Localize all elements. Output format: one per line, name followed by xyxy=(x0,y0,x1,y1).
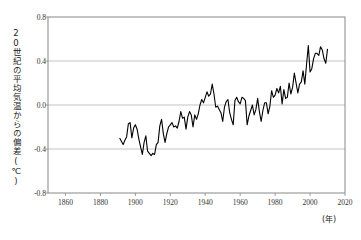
grid-lines xyxy=(48,61,345,149)
x-tick-label: 1860 xyxy=(48,198,82,207)
temperature-anomaly-line xyxy=(120,46,328,156)
x-axis-unit-label: (年) xyxy=(322,213,336,224)
x-tick-label: 2000 xyxy=(293,198,327,207)
x-tick-label: 1920 xyxy=(153,198,187,207)
x-tick-label: 1980 xyxy=(258,198,292,207)
x-tick-label: 1900 xyxy=(118,198,152,207)
x-tick-label: 1880 xyxy=(83,198,117,207)
x-tick-label: 1960 xyxy=(223,198,257,207)
chart-container: 20世紀の平均気温からの偏差(℃) 0.80.40.0-0.4-0.8 1860… xyxy=(0,0,361,240)
x-tick-label: 2020 xyxy=(328,198,361,207)
x-tick-label: 1940 xyxy=(188,198,222,207)
